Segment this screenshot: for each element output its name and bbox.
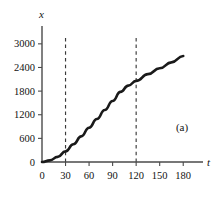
- y-tick-label: 0: [30, 157, 35, 168]
- x-tick-label: 180: [175, 170, 191, 181]
- x-tick-label: 120: [128, 170, 144, 181]
- x-axis-label: t: [207, 156, 211, 168]
- x-tick-label: 0: [39, 170, 44, 181]
- figure-panel: 06001200180024003000 0306090120150180 x …: [0, 0, 216, 199]
- y-tick-label: 1800: [14, 86, 35, 97]
- x-tick-label: 60: [84, 170, 95, 181]
- y-tick-label: 3000: [14, 38, 35, 49]
- x-tick-label: 30: [60, 170, 71, 181]
- x-tick-label: 150: [152, 170, 168, 181]
- y-tick-layer: 06001200180024003000: [14, 38, 42, 167]
- y-axis-label: x: [38, 8, 44, 20]
- panel-annotation: (a): [176, 121, 189, 134]
- y-tick-label: 2400: [14, 62, 35, 73]
- data-curve: [42, 56, 183, 162]
- y-tick-label: 600: [19, 133, 35, 144]
- data-curve-layer: [42, 56, 183, 162]
- x-tick-label: 90: [107, 170, 118, 181]
- line-chart-svg: 06001200180024003000 0306090120150180 x …: [0, 0, 216, 199]
- y-tick-label: 1200: [14, 109, 35, 120]
- x-tick-layer: 0306090120150180: [39, 162, 191, 181]
- axis-layer: [42, 26, 203, 162]
